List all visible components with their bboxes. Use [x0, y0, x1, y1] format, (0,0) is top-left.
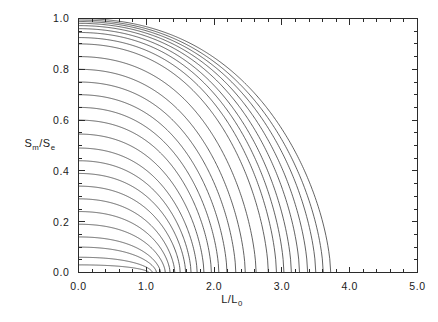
- data-curve: [79, 26, 300, 273]
- data-curve: [79, 148, 198, 272]
- svg-text:Sm/Se: Sm/Se: [24, 137, 55, 152]
- data-curve: [79, 95, 227, 273]
- data-curve: [79, 38, 277, 273]
- figure-panel: 0.01.02.03.04.05.0 0.00.20.40.60.81.0 L/…: [0, 0, 438, 322]
- x-tick-label: 3.0: [274, 280, 290, 292]
- y-axis-tick-labels: 0.00.20.40.60.81.0: [53, 12, 69, 278]
- data-curve: [79, 57, 257, 273]
- data-curve: [79, 237, 161, 273]
- x-tick-label: 4.0: [341, 280, 357, 292]
- x-axis-title: L/L0: [221, 293, 243, 308]
- svg-text:L/L0: L/L0: [221, 293, 243, 308]
- data-curve: [79, 69, 246, 272]
- data-curve: [79, 186, 181, 272]
- chart-svg: 0.01.02.03.04.05.0 0.00.20.40.60.81.0 L/…: [0, 0, 438, 322]
- y-tick-label: 0.6: [53, 114, 69, 126]
- x-tick-label: 5.0: [409, 280, 425, 292]
- y-tick-label: 0.4: [53, 165, 69, 177]
- y-axis-title: Sm/Se: [24, 137, 55, 152]
- x-tick-label: 0.0: [70, 280, 86, 292]
- data-curve: [79, 134, 204, 272]
- curve-family: [79, 19, 331, 273]
- data-curve: [79, 19, 331, 273]
- data-curve: [79, 199, 175, 273]
- x-tick-label: 1.0: [138, 280, 154, 292]
- data-curve: [79, 265, 150, 273]
- data-curve: [79, 32, 284, 272]
- y-tick-label: 0.8: [53, 63, 69, 75]
- y-tick-label: 1.0: [53, 12, 69, 24]
- x-axis-tick-labels: 0.01.02.03.04.05.0: [70, 280, 425, 292]
- y-tick-label: 0.2: [53, 216, 69, 228]
- data-curve: [79, 161, 192, 273]
- y-tick-label: 0.0: [53, 266, 69, 278]
- x-tick-label: 2.0: [206, 280, 222, 292]
